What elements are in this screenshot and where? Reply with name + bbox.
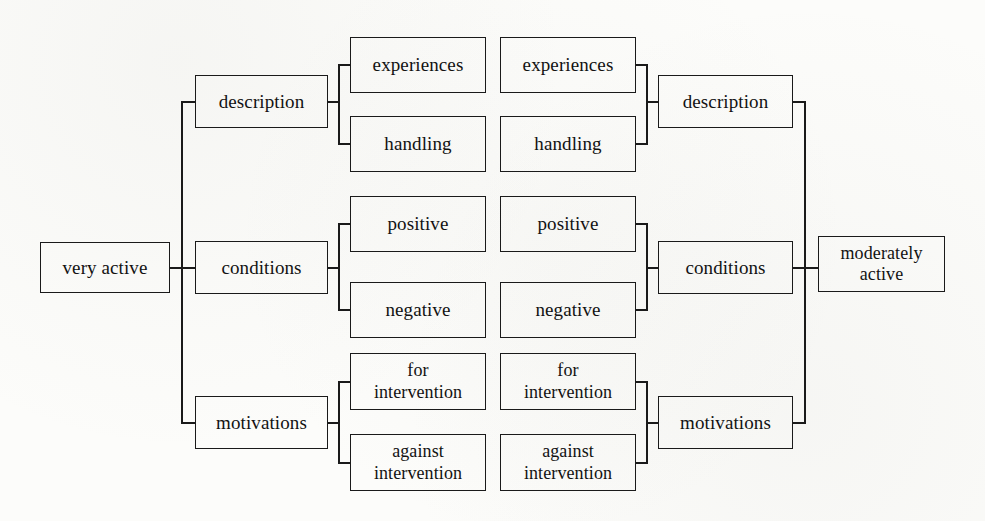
node-right-negative: negative <box>500 282 636 338</box>
tree-diagram: very active description conditions motiv… <box>0 0 985 521</box>
node-left-description: description <box>195 75 328 128</box>
edge-left-motivations-split <box>338 381 340 463</box>
edge-right-root-stub <box>804 267 818 269</box>
node-right-root-label: moderately active <box>823 243 940 285</box>
edge-left-to-against-intervention <box>338 462 350 464</box>
edge-left-to-positive <box>338 223 350 225</box>
node-left-motivations-label: motivations <box>216 412 307 433</box>
node-left-experiences: experiences <box>350 37 486 93</box>
edge-right-description-stub <box>646 101 658 103</box>
node-left-description-label: description <box>219 91 305 112</box>
edge-left-to-handling <box>338 143 350 145</box>
node-left-positive: positive <box>350 196 486 252</box>
node-left-negative: negative <box>350 282 486 338</box>
node-left-experiences-label: experiences <box>373 54 464 75</box>
node-right-motivations: motivations <box>658 396 793 449</box>
node-right-handling: handling <box>500 116 636 172</box>
node-right-handling-label: handling <box>534 133 601 154</box>
node-left-conditions: conditions <box>195 241 328 294</box>
node-right-for-intervention-label: for intervention <box>524 360 612 402</box>
node-right-positive-label: positive <box>538 213 599 234</box>
edge-left-description-split <box>338 64 340 144</box>
node-left-motivations: motivations <box>195 396 328 449</box>
edge-right-trunk <box>804 101 806 424</box>
node-right-conditions-label: conditions <box>685 257 765 278</box>
node-left-conditions-label: conditions <box>221 257 301 278</box>
node-right-against-intervention: against intervention <box>500 434 636 491</box>
node-right-root: moderately active <box>818 236 945 292</box>
edge-left-to-for-intervention <box>338 381 350 383</box>
node-right-description-label: description <box>683 91 769 112</box>
node-right-conditions: conditions <box>658 241 793 294</box>
edge-right-motivations-stub <box>646 422 658 424</box>
edge-right-description-split <box>646 64 648 144</box>
node-left-root-label: very active <box>63 257 148 278</box>
node-left-handling: handling <box>350 116 486 172</box>
node-left-against-intervention-label: against intervention <box>374 441 462 483</box>
node-right-experiences-label: experiences <box>523 54 614 75</box>
edge-left-trunk <box>181 101 183 424</box>
node-left-negative-label: negative <box>385 299 450 320</box>
node-left-against-intervention: against intervention <box>350 434 486 491</box>
node-left-root: very active <box>40 242 170 293</box>
node-right-for-intervention: for intervention <box>500 353 636 410</box>
edge-left-conditions-split <box>338 223 340 310</box>
edge-left-trunk-motivations <box>181 422 196 424</box>
node-right-description: description <box>658 75 793 128</box>
edge-right-conditions-stub <box>646 267 658 269</box>
node-right-experiences: experiences <box>500 37 636 93</box>
node-left-handling-label: handling <box>384 133 451 154</box>
edge-left-trunk-conditions <box>181 267 196 269</box>
node-right-positive: positive <box>500 196 636 252</box>
node-left-positive-label: positive <box>388 213 449 234</box>
node-left-for-intervention: for intervention <box>350 353 486 410</box>
edge-left-to-negative <box>338 309 350 311</box>
node-right-against-intervention-label: against intervention <box>524 441 612 483</box>
node-left-for-intervention-label: for intervention <box>374 360 462 402</box>
edge-left-to-experiences <box>338 64 350 66</box>
edge-left-trunk-description <box>181 101 196 103</box>
node-right-motivations-label: motivations <box>680 412 771 433</box>
node-right-negative-label: negative <box>535 299 600 320</box>
